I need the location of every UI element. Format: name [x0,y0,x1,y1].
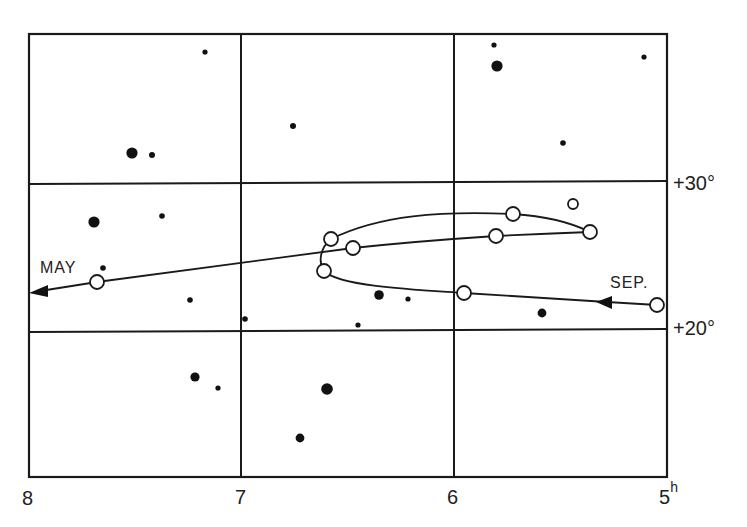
planet-position-marker [489,229,503,243]
star-dot [321,383,333,395]
star-dot [149,152,155,158]
star-dot [215,385,220,390]
star-dot [641,54,646,59]
planet-position-marker [90,275,104,289]
star-dot [405,296,410,301]
star-dot [88,216,99,227]
path-segment-upper-arc [331,213,590,239]
planet-position-marker [583,225,597,239]
star-dot [491,42,496,47]
ra-label-7: 7 [235,486,246,508]
label-sep: SEP. [610,274,648,291]
dec-line-plus30 [29,181,667,184]
ra-label-6: 6 [447,486,458,508]
planet-path [29,213,657,309]
star-dot [159,213,165,219]
ra-label-8: 8 [22,487,33,509]
star-dot [202,49,207,54]
star-dot [538,309,547,318]
planet-position-marker [346,241,360,255]
dec-axis-labels: +30° +20° [673,172,715,339]
star-dot [190,372,199,381]
ra-label-5h: 5h [659,479,678,508]
planet-position-marker [506,207,520,221]
planet-position-marker [324,232,338,246]
chart-frame [29,34,667,477]
direction-arrow-sep [596,296,612,309]
star-dot [187,297,193,303]
planet-position-marker [568,199,578,209]
star-dot [290,123,296,129]
star-dot [242,316,248,322]
star-dot [560,140,566,146]
star-dot [355,322,360,327]
dec-label-plus30: +30° [673,172,715,194]
ra-label-hour-suffix: h [670,479,678,495]
ra-label-5: 5 [659,486,670,508]
dec-line-plus20 [29,329,667,332]
dec-label-plus20: +20° [673,317,715,339]
star-dot [100,265,106,271]
star-field [88,42,646,442]
coordinate-grid [29,34,667,477]
direction-arrow-may [29,285,48,297]
label-may: MAY [40,259,76,276]
retrograde-motion-diagram: MAY SEP. 8 7 6 5h +30° +20° [0,0,747,527]
path-segment-return [40,232,590,291]
planet-position-marker [650,298,664,312]
star-dot [374,290,384,300]
star-dot [296,434,305,443]
star-dot [491,60,502,71]
planet-position-marker [317,264,331,278]
star-dot [126,147,137,158]
planet-position-marker [457,286,471,300]
ra-axis-labels: 8 7 6 5h [22,479,678,509]
